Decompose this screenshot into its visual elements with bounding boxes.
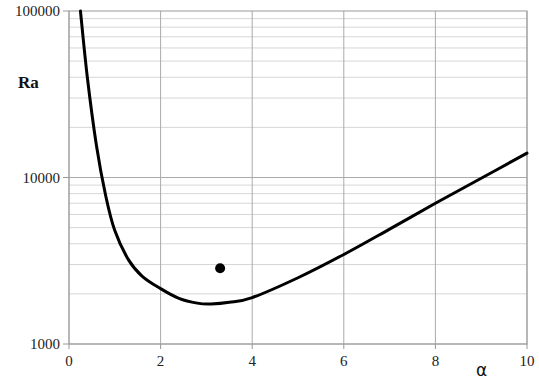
y-tick-label: 10000 (23, 170, 61, 186)
x-tick-label: 6 (340, 353, 348, 369)
x-tick-label: 10 (520, 353, 535, 369)
y-tick-label: 100000 (15, 3, 60, 19)
data-points (215, 263, 225, 273)
x-tick-label: 2 (157, 353, 165, 369)
data-curve (80, 11, 527, 304)
y-axis-label: Ra (18, 73, 39, 92)
x-tick-label: 8 (432, 353, 440, 369)
chart: 100010000100000 0246810 Ra α (0, 0, 539, 379)
x-tick-label: 4 (248, 353, 256, 369)
x-axis-ticks: 0246810 (65, 344, 534, 369)
grid-lines (69, 11, 527, 344)
x-tick-label: 0 (65, 353, 73, 369)
x-axis-label: α (476, 360, 487, 379)
data-point-marker (215, 263, 225, 273)
y-tick-label: 1000 (30, 336, 60, 352)
y-axis-ticks: 100010000100000 (15, 3, 69, 352)
